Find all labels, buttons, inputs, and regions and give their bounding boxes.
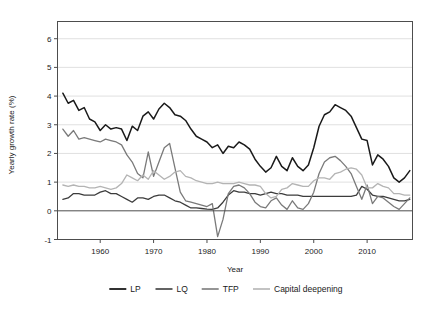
x-tick-label: 1970 [145, 247, 163, 256]
legend-label-lp[interactable]: LP [130, 284, 141, 294]
y-tick-label: 2 [47, 149, 52, 158]
y-tick-label: 1 [47, 178, 52, 187]
legend-label-lq[interactable]: LQ [177, 284, 189, 294]
chart-figure: -10123456 196019701980199020002010 Yearl… [0, 0, 431, 310]
y-tick-label: 4 [47, 92, 52, 101]
x-tick-label: 1990 [251, 247, 269, 256]
y-tick-label: 6 [47, 35, 52, 44]
x-tick-label: 1960 [91, 247, 109, 256]
y-tick-label: 3 [47, 121, 52, 130]
x-tick-label: 2010 [358, 247, 376, 256]
x-tick-label: 2000 [305, 247, 323, 256]
y-axis-label: Yearly growth rate (%) [7, 95, 16, 174]
x-tick-label: 1980 [198, 247, 216, 256]
x-axis-label: Year [227, 265, 244, 274]
legend-label-tfp[interactable]: TFP [223, 284, 239, 294]
chart-background [0, 0, 431, 310]
line-chart: -10123456 196019701980199020002010 Yearl… [0, 0, 431, 310]
y-tick-label: -1 [44, 236, 52, 245]
y-tick-label: 5 [47, 63, 52, 72]
legend-label-capital-deepening[interactable]: Capital deepening [274, 284, 343, 294]
y-tick-label: 0 [47, 207, 52, 216]
